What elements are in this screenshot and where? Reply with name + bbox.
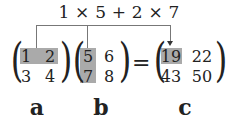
label-c: c — [170, 94, 200, 120]
connector-a — [36, 25, 37, 49]
b-cell-22: 8 — [97, 67, 121, 86]
arrow-down-icon — [167, 41, 173, 46]
paren-right-c: ) — [215, 37, 228, 83]
connector-horizontal — [36, 25, 171, 26]
b-cell-12: 6 — [97, 47, 121, 66]
a-cell-22: 4 — [38, 67, 62, 86]
paren-right-a: ) — [60, 37, 73, 83]
c-cell-11: 19 — [159, 47, 183, 66]
a-cell-11: 1 — [14, 47, 38, 66]
connector-b — [87, 25, 88, 49]
label-a: a — [22, 94, 52, 120]
c-cell-21: 43 — [159, 67, 183, 86]
label-b: b — [86, 94, 116, 120]
a-cell-12: 2 — [38, 47, 62, 66]
c-cell-12: 22 — [190, 47, 214, 66]
equals-sign: = — [132, 50, 150, 75]
paren-right-b: ) — [119, 37, 132, 83]
connector-c — [170, 25, 171, 42]
c-cell-22: 50 — [190, 67, 214, 86]
formula-annotation: 1 × 5 + 2 × 7 — [0, 2, 230, 22]
a-cell-21: 3 — [14, 67, 38, 86]
